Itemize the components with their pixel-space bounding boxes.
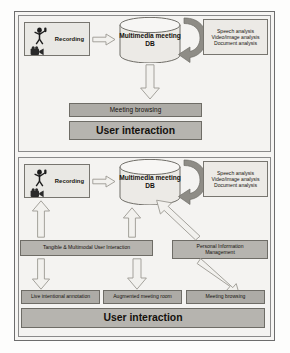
- recording-box-bottom: Recording: [24, 164, 90, 198]
- user-interaction-bar-bottom: User interaction: [21, 308, 265, 328]
- arrow-tangible-to-recording: [31, 200, 51, 238]
- meeting-browsing-box-bottom: Meeting browsing: [186, 290, 265, 304]
- database-label-bottom: Multimedia meeting DB: [118, 174, 182, 190]
- architecture-diagram: Recording Multimedia meeting DB Speech a…: [0, 0, 290, 353]
- arrow-tangible-to-live-annotation: [31, 258, 51, 290]
- database-cylinder-top: Multimedia meeting DB: [118, 17, 182, 63]
- arrow-recording-to-db-bottom: [92, 175, 116, 188]
- tangible-multimodal-bar: Tangible & Multimodal User Interaction: [20, 240, 153, 256]
- arrow-personal-information-to-db: [155, 198, 203, 240]
- analysis-box-top: Speech analysis Video/image analysis Doc…: [203, 19, 268, 55]
- live-intentional-annotation-box: Live intentional annotation: [21, 290, 100, 304]
- recording-box-top: Recording: [24, 22, 90, 56]
- database-label-top: Multimedia meeting DB: [118, 32, 182, 48]
- arrow-tangible-to-db: [122, 207, 142, 238]
- user-interaction-bar-top: User interaction: [69, 121, 202, 140]
- arrow-recording-to-db-top: [92, 33, 116, 46]
- personal-information-line2: Management: [205, 250, 235, 256]
- personal-information-box: Personal Information Management: [172, 240, 268, 259]
- analysis-box-bottom: Speech analysis Video/image analysis Doc…: [203, 161, 268, 197]
- video-camera-icon: [30, 43, 45, 62]
- arrow-db-to-browsing-top: [139, 64, 161, 100]
- analysis-line-document-bottom: Document analysis: [214, 182, 257, 188]
- arrow-personal-information-to-meeting-browsing: [196, 258, 240, 292]
- augmented-meeting-room-box: Augmented meeting room: [103, 290, 182, 304]
- meeting-browsing-bar-top: Meeting browsing: [69, 103, 202, 117]
- recording-label-top: Recording: [55, 36, 84, 43]
- analysis-line-document-top: Document analysis: [214, 40, 257, 46]
- recording-label-bottom: Recording: [55, 178, 84, 185]
- arrow-db-to-augmented-room: [126, 258, 148, 290]
